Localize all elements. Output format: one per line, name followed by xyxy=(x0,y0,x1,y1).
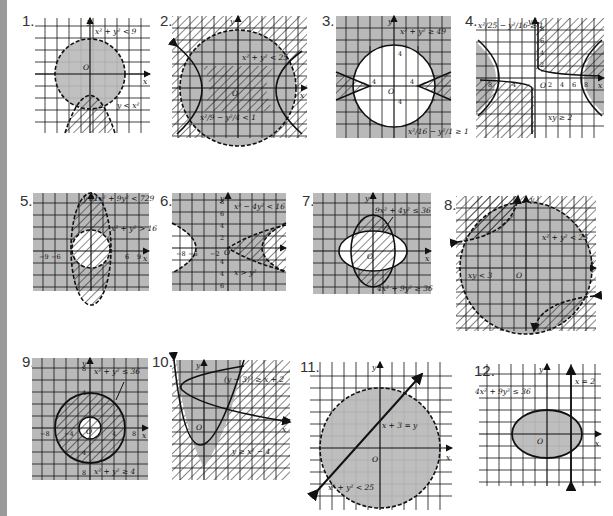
origin-label: O xyxy=(388,87,394,96)
origin-label: O xyxy=(540,81,546,90)
figure-10-graph: y x O (y − 3)² ≥ x + 2 y ≥ x² − 4 xyxy=(172,360,290,480)
svg-text:y: y xyxy=(529,195,535,204)
svg-text:y: y xyxy=(229,17,235,26)
origin-label: O xyxy=(83,63,89,72)
origin-label: O xyxy=(537,437,543,446)
svg-text:y: y xyxy=(195,361,201,370)
inequality-label-outer-circle: x² + y² ≤ 36 xyxy=(94,367,140,376)
inequality-label-circle: x² + y² < 25 xyxy=(542,233,588,242)
tick-label: 9 xyxy=(137,253,141,261)
tick-label: 6 xyxy=(572,81,576,89)
svg-text:y: y xyxy=(364,194,370,203)
inequality-label-hyperbola: x²/25 − y²/16 ≥ 1 xyxy=(478,21,544,30)
tick-label: 6 xyxy=(125,253,129,261)
y-axis-label: y xyxy=(86,17,92,26)
tick-label: 4 xyxy=(220,270,224,278)
figure-6-graph: y O 8 6 4 2 −8 −6 −2 4 4 6 x² − 4y² < 16… xyxy=(172,193,286,291)
origin-label: O xyxy=(516,271,522,280)
svg-text:x: x xyxy=(446,453,451,462)
tick-label: 4 xyxy=(82,449,86,457)
tick-label: 4 xyxy=(410,78,414,86)
figure-3-graph: y O 4 4 4 4 x² + y² ≥ 49 x²/16 − y²/1 ≥ … xyxy=(336,16,451,138)
figure-number-2: 2. xyxy=(160,12,173,29)
inequality-label-circle: x² + y² > 16 xyxy=(111,224,157,233)
tick-label: −6 xyxy=(51,253,61,261)
tick-label: −4 xyxy=(64,430,74,438)
tick-label: 8 xyxy=(82,365,86,373)
tick-label: 4 xyxy=(220,258,224,266)
tick-label: 8 xyxy=(132,430,136,438)
figure-5-graph: y x −9 −6 6 9 81x² + 9y² < 729 x² + y² >… xyxy=(33,193,149,291)
tick-label: −6 xyxy=(188,250,198,258)
tick-label: 4 xyxy=(398,98,402,106)
tick-label: 4 xyxy=(82,389,86,397)
origin-label: O xyxy=(196,423,202,432)
tick-label: 4 xyxy=(540,49,544,57)
inequality-label-circle: x² + y² ≥ 49 xyxy=(400,27,446,36)
tick-label: 4 xyxy=(372,78,376,86)
svg-text:y: y xyxy=(387,17,393,26)
svg-text:y: y xyxy=(82,194,88,203)
figure-number-1: 1. xyxy=(22,12,35,29)
origin-label: O xyxy=(232,89,238,98)
origin-label: O xyxy=(367,252,373,261)
figure-2-graph: y x O x² + y² < 25 x²/9 − y²/4 < 1 xyxy=(172,16,307,138)
origin-label: O xyxy=(372,455,378,464)
inequality-label-horizontal-ellipse: 4x² + 9y² ≥ 36 xyxy=(376,284,433,293)
inequality-label-ellipse: 81x² + 9y² < 729 xyxy=(89,194,154,203)
tick-label: 4 xyxy=(398,50,402,58)
tick-label: 8 xyxy=(584,81,588,89)
figure-number-8: 8. xyxy=(444,196,457,213)
x-axis-label: x xyxy=(143,77,148,86)
inequality-label-parabola: y < x² xyxy=(116,101,140,110)
figure-1-graph: y x O x² + y² < 9 y < x² xyxy=(35,18,150,133)
origin-label: O xyxy=(224,248,230,257)
inequality-label-parabola-upward: y ≥ x² − 4 xyxy=(231,447,271,456)
line-label: x = 2 xyxy=(575,377,595,386)
inequality-label-hyperbola: x² − 4y² < 16 xyxy=(234,202,285,211)
line-label: x + 3 = y xyxy=(382,421,418,430)
inequality-label-circle: x² + y² < 25 xyxy=(242,53,288,62)
figure-7-graph: y x O 9x² + 4y² ≤ 36 4x² + 9y² ≥ 36 xyxy=(313,193,431,294)
tick-label: 8 xyxy=(82,469,86,477)
svg-text:x: x xyxy=(595,439,600,448)
tick-label: 6 xyxy=(220,210,224,218)
svg-text:y: y xyxy=(538,365,544,374)
inequality-label-hyperbola: x²/16 − y²/1 ≥ 1 xyxy=(408,127,469,136)
inequality-label-circle: x² + y² < 25 xyxy=(328,483,374,492)
figure-12-graph: y x O x = 2 4x² + 9y² ≤ 36 xyxy=(475,364,605,486)
inequality-label-ellipse: 4x² + 9y² ≤ 36 xyxy=(474,387,531,396)
origin-label: O xyxy=(86,427,92,436)
tick-label: 2 xyxy=(220,234,224,242)
tick-label: −8 xyxy=(176,250,186,258)
inequality-label-circle: x² + y² < 9 xyxy=(95,27,137,36)
inequality-label-vertical-ellipse: 9x² + 4y² ≤ 36 xyxy=(375,206,431,215)
figure-number-3: 3. xyxy=(322,12,335,29)
tick-label: −8 xyxy=(40,430,50,438)
figure-number-6: 6. xyxy=(160,192,173,209)
inequality-label-inner-circle: x² + y² ≥ 4 xyxy=(94,467,136,476)
tick-label: 4 xyxy=(220,222,224,230)
tick-label: −2 xyxy=(210,250,220,258)
figure-number-5: 5. xyxy=(20,192,33,209)
tick-label: 8 xyxy=(220,198,224,206)
figure-4-graph: y x O 8 6 4 2 2 4 6 8 8 4 x²/25 − y²/16 … xyxy=(476,18,604,138)
tick-label: 6 xyxy=(540,37,544,45)
figure-8-graph: y x O x² + y² < 25 xy < 3 xyxy=(456,196,596,331)
inequality-label-hyperbola: x²/9 − y²/4 < 1 xyxy=(200,113,256,122)
tick-label: 2 xyxy=(540,61,544,69)
figure-9-graph: y x O 8 4 −8 −4 4 8 4 8 x² + y² ≤ 36 x² … xyxy=(32,358,148,480)
tick-label: 6 xyxy=(220,282,224,290)
inequality-label-xy: xy < 3 xyxy=(468,271,493,280)
figure-11-graph: y x O x + 3 = y x² + y² < 25 xyxy=(310,362,452,510)
tick-label: 4 xyxy=(512,81,516,89)
figure-number-10: 10. xyxy=(152,353,173,370)
svg-text:y: y xyxy=(371,363,377,372)
tick-label: 8 xyxy=(488,81,492,89)
inequality-label-parabola-sideways: (y − 3)² ≥ x + 2 xyxy=(224,375,284,384)
tick-label: 2 xyxy=(548,81,552,89)
page-binding-edge xyxy=(0,0,7,516)
tick-label: 4 xyxy=(112,430,116,438)
tick-label: 4 xyxy=(560,81,564,89)
inequality-label-parabola: x > y² xyxy=(234,268,257,277)
